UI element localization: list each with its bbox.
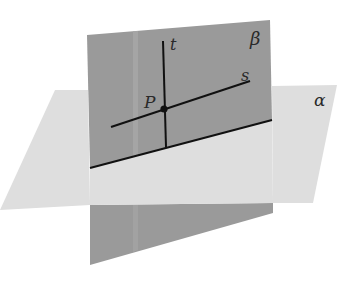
plane-alpha-left	[0, 90, 90, 210]
two-planes-diagram: β t s P α	[0, 0, 355, 295]
plane-beta-lower	[90, 203, 273, 265]
point-p	[160, 105, 167, 112]
label-s: s	[241, 66, 249, 85]
plane-beta-strip	[133, 31, 138, 156]
label-p: P	[143, 92, 156, 112]
label-alpha: α	[314, 90, 326, 110]
label-t: t	[170, 35, 177, 54]
plane-beta-lower-strip	[133, 205, 138, 252]
label-beta: β	[249, 28, 260, 49]
plane-alpha-right	[272, 85, 337, 203]
